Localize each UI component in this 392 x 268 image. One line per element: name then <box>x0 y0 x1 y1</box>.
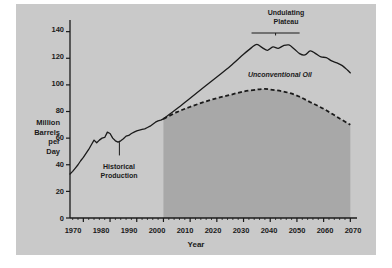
chart-plot-svg <box>0 0 392 268</box>
oil-production-chart-figure: Million Barrels per Day 140 120 100 80 6… <box>0 0 392 268</box>
